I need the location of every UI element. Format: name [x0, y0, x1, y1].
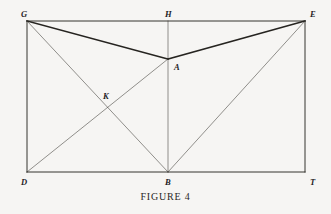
figure-caption: FIGURE 4: [0, 191, 331, 202]
vertex-label-G: G: [21, 10, 27, 19]
vertex-label-H: H: [165, 10, 172, 19]
vertex-label-D: D: [21, 178, 27, 187]
vertex-label-B: B: [165, 178, 171, 187]
vertex-label-K: K: [103, 92, 109, 101]
figure-container: G H E A K D B T FIGURE 4: [0, 0, 331, 214]
segment-GA: [27, 21, 168, 59]
segment-AE: [168, 21, 305, 59]
vertex-label-T: T: [310, 178, 315, 187]
vertex-label-E: E: [310, 10, 316, 19]
segment-DA: [27, 59, 168, 172]
segment-BE: [168, 21, 305, 172]
vertex-label-A: A: [174, 63, 180, 72]
segment-GB: [27, 21, 168, 172]
